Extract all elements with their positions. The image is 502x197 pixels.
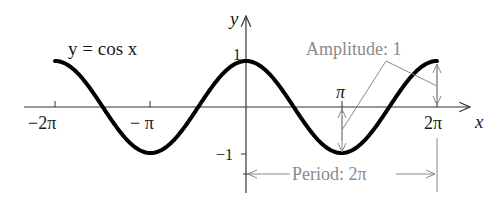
tick-label-neg-2pi: −2π: [28, 113, 56, 133]
x-axis-label: x: [474, 111, 484, 132]
amplitude-leader: [342, 61, 437, 130]
y-axis-label: y: [228, 8, 239, 29]
y-ticks: [241, 62, 249, 174]
amplitude-label: Amplitude: 1: [306, 39, 402, 59]
tick-label-pi: π: [336, 82, 346, 102]
tick-label-neg-pi: − π: [130, 113, 154, 133]
period-label: Period: 2π: [292, 164, 367, 184]
tick-label-neg-one: −1: [216, 146, 233, 163]
tick-label-one: 1: [233, 46, 241, 63]
equation-text: y = cos x: [68, 38, 138, 59]
cosine-graph: y = cos x y x −2π − π π 2π 1 −1 Amplitud…: [0, 0, 502, 197]
tick-label-2pi: 2π: [424, 113, 442, 133]
